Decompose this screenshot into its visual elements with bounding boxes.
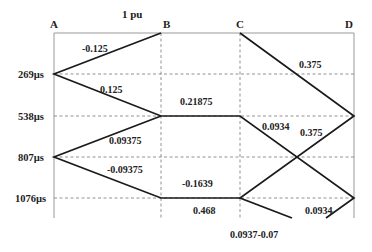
wave-label: 0.09375 <box>109 135 142 146</box>
time-label-538: 538µs <box>18 111 44 122</box>
node-label-a: A <box>50 18 58 30</box>
wave-label: 0.375 <box>300 127 323 138</box>
wave-label: 0.0934 <box>305 205 333 216</box>
time-label-269: 269µs <box>18 69 44 80</box>
wave-label: 0.0934 <box>262 121 290 132</box>
wave-label: 0.125 <box>100 84 123 95</box>
wave-label: -0.125 <box>82 43 108 54</box>
wave-label: 0.468 <box>193 205 216 216</box>
wave-path-2 <box>240 33 354 218</box>
source-label: 1 pu <box>122 8 143 20</box>
time-label-1076: 1076µs <box>15 193 46 204</box>
wave-label: -0.1639 <box>182 178 213 189</box>
wave-label: 0.375 <box>299 59 322 70</box>
wave-label: -0.09375 <box>107 164 143 175</box>
time-label-807: 807µs <box>18 152 44 163</box>
lattice-diagram: A B C D 1 pu 269µs 538µs 807µs 1076µs -0… <box>0 0 372 252</box>
node-label-c: C <box>236 18 244 30</box>
wave-label: 0.0937-0.07 <box>230 229 278 240</box>
node-label-d: D <box>345 18 353 30</box>
node-label-b: B <box>163 18 171 30</box>
wave-label: 0.21875 <box>180 96 213 107</box>
